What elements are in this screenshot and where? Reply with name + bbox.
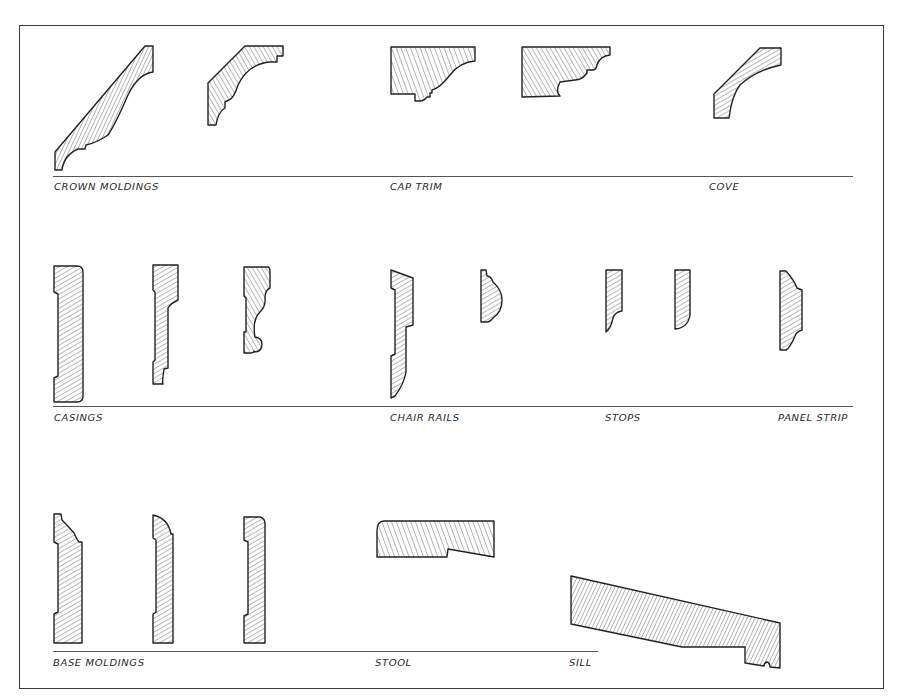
- cove-profile: [714, 48, 781, 118]
- stop-profile-2: [675, 270, 690, 329]
- crown-molding-profile-2: [208, 46, 283, 125]
- cap-trim-profile-1: [391, 47, 475, 101]
- chair-rail-profile-2: [481, 270, 502, 322]
- label-sill: SILL: [569, 657, 592, 667]
- stop-profile-1: [606, 270, 622, 332]
- base-molding-profile-1: [54, 514, 82, 643]
- casing-profile-2: [153, 265, 178, 384]
- profiles-svg: [0, 0, 907, 700]
- casing-profile-3: [244, 267, 270, 353]
- label-cap-trim: CAP TRIM: [390, 181, 442, 191]
- panel-strip-profile: [780, 271, 802, 350]
- label-stops: STOPS: [605, 412, 641, 422]
- label-crown-moldings: CROWN MOLDINGS: [54, 181, 159, 191]
- stool-profile: [377, 521, 494, 557]
- label-chair-rails: CHAIR RAILS: [390, 412, 460, 422]
- label-panel-strip: PANEL STRIP: [778, 412, 848, 422]
- casing-profile-1: [54, 266, 83, 402]
- label-stool: STOOL: [375, 657, 412, 667]
- cap-trim-profile-2: [522, 47, 610, 97]
- label-cove: COVE: [709, 181, 739, 191]
- label-casings: CASINGS: [54, 412, 103, 422]
- molding-profiles-sheet: CROWN MOLDINGS CAP TRIM COVE CASINGS CHA…: [0, 0, 907, 700]
- label-base-moldings: BASE MOLDINGS: [53, 657, 145, 667]
- crown-molding-profile-1: [55, 46, 153, 170]
- sill-profile: [571, 576, 780, 668]
- chair-rail-profile-1: [391, 270, 413, 398]
- base-molding-profile-2: [153, 515, 173, 643]
- base-molding-profile-3: [244, 517, 265, 643]
